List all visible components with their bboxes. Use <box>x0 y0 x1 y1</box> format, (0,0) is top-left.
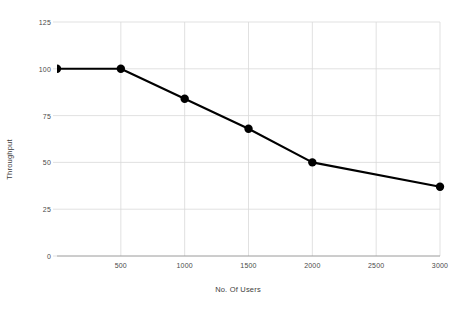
data-point-marker <box>117 65 125 73</box>
y-axis-tick-label: 125 <box>20 19 51 26</box>
x-axis-tick-label: 1500 <box>240 262 256 269</box>
line-chart-plot <box>0 0 476 309</box>
y-axis-tick-label: 75 <box>20 112 51 119</box>
x-axis-tick-label: 2000 <box>304 262 320 269</box>
grid-lines <box>57 22 440 256</box>
y-axis-tick-label: 0 <box>20 253 51 260</box>
y-axis-title: Throughput <box>5 139 14 179</box>
x-axis-title: No. Of Users <box>0 285 476 294</box>
data-point-marker <box>436 183 444 191</box>
data-point-marker <box>308 158 316 166</box>
y-axis-tick-label: 25 <box>20 206 51 213</box>
x-axis-tick-label: 2500 <box>368 262 384 269</box>
axis-lines <box>53 22 440 256</box>
data-point-marker <box>180 95 188 103</box>
x-axis-tick-label: 500 <box>115 262 127 269</box>
data-point-marker <box>244 125 252 133</box>
chart-container: 0255075100125 50010001500200025003000 No… <box>0 0 476 309</box>
x-axis-tick-label: 1000 <box>176 262 192 269</box>
y-axis-tick-label: 100 <box>20 65 51 72</box>
x-axis-tick-label: 3000 <box>432 262 448 269</box>
y-axis-tick-label: 50 <box>20 159 51 166</box>
